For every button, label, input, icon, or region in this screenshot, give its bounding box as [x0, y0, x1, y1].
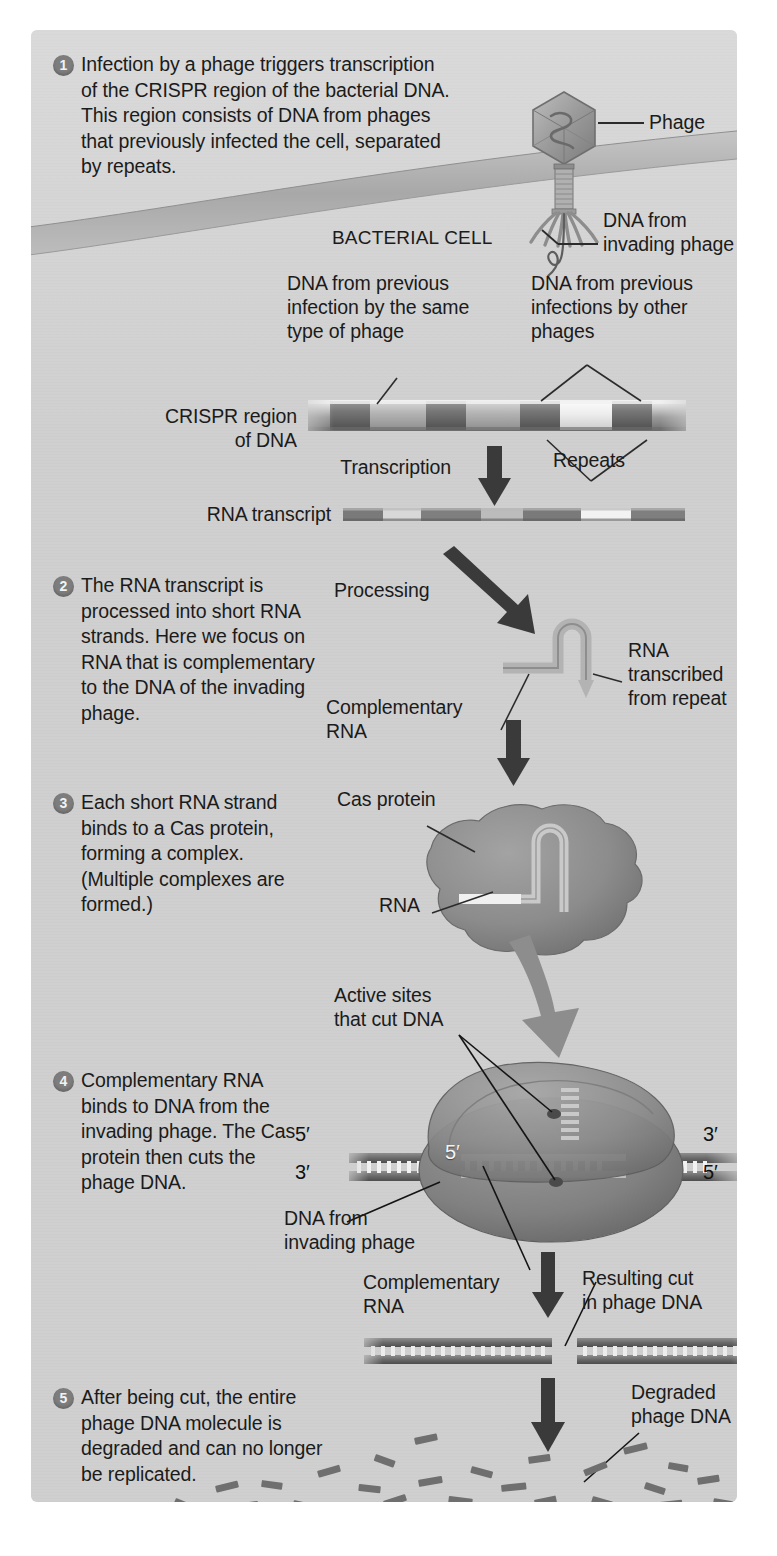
label-dna-from-invading-phage-2: DNA from invading phage [284, 1206, 415, 1254]
label-transcription: Transcription [271, 455, 451, 479]
label-cas-protein: Cas protein [337, 787, 436, 811]
label-active-sites: Active sites that cut DNA [334, 983, 443, 1031]
rna-hairpin [503, 624, 594, 698]
step-1: 1 Infection by a phage triggers transcri… [53, 52, 453, 180]
step-4-text: Complementary RNA binds to DNA from the … [81, 1068, 303, 1196]
arrow-to-cut-dna [532, 1252, 564, 1318]
label-repeats: Repeats [553, 448, 625, 472]
step-2-bullet: 2 [53, 576, 74, 597]
rna-transcript-bar [343, 508, 685, 521]
label-complementary-rna-2: Complementary RNA [363, 1270, 499, 1318]
label-resulting-cut: Resulting cut in phage DNA [582, 1266, 702, 1314]
label-rna-transcribed-from-repeat: RNA transcribed from repeat [628, 638, 727, 710]
label-degraded-phage-dna: Degraded phage DNA [631, 1380, 731, 1428]
label-5prime-left: 5′ [295, 1123, 310, 1146]
label-phage: Phage [649, 110, 705, 134]
step-2-text: The RNA transcript is processed into sho… [81, 573, 318, 726]
processing-arrow [443, 546, 535, 634]
arrow-to-cas [497, 720, 530, 786]
label-3prime-right: 3′ [703, 1123, 718, 1146]
label-3prime-left: 3′ [295, 1161, 310, 1184]
step-1-bullet: 1 [53, 55, 74, 76]
label-5prime-inner: 5′ [445, 1141, 460, 1164]
label-processing: Processing [334, 578, 429, 602]
step-5-bullet: 5 [53, 1388, 74, 1409]
label-rna: RNA [379, 893, 420, 917]
label-rna-transcript: RNA transcript [141, 502, 331, 526]
step-5-text: After being cut, the entire phage DNA mo… [81, 1385, 333, 1487]
arrow-to-degraded-dna [531, 1378, 565, 1452]
figure-panel: 1 Infection by a phage triggers transcri… [31, 30, 737, 1502]
crispr-dna-bar [308, 400, 686, 431]
label-bacterial-cell: BACTERIAL CELL [332, 226, 493, 250]
cut-dna-duplexes [359, 1334, 737, 1368]
step-3: 3 Each short RNA strand binds to a Cas p… [53, 790, 318, 918]
step-2: 2 The RNA transcript is processed into s… [53, 573, 318, 726]
step-1-text: Infection by a phage triggers transcript… [81, 52, 453, 180]
label-5prime-right: 5′ [703, 1161, 718, 1184]
cas-protein-blob [427, 805, 642, 955]
step-3-bullet: 3 [53, 793, 74, 814]
transcription-arrow [478, 446, 511, 506]
phage-icon [531, 92, 597, 276]
label-crispr-region: CRISPR region of DNA [145, 404, 297, 452]
label-dna-previous-same: DNA from previous infection by the same … [287, 271, 469, 343]
label-complementary-rna-1: Complementary RNA [326, 695, 462, 743]
label-dna-previous-other: DNA from previous infections by other ph… [531, 271, 693, 343]
figure-page: 1 Infection by a phage triggers transcri… [0, 0, 777, 1556]
step-4: 4 Complementary RNA binds to DNA from th… [53, 1068, 303, 1196]
label-dna-from-invading-phage: DNA from invading phage [603, 208, 734, 256]
step-5: 5 After being cut, the entire phage DNA … [53, 1385, 333, 1487]
step-4-bullet: 4 [53, 1071, 74, 1092]
leader-degraded-dna [584, 1433, 639, 1482]
step-3-text: Each short RNA strand binds to a Cas pro… [81, 790, 318, 918]
